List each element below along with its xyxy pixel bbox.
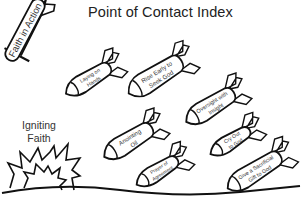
explosion-icon [8, 144, 80, 190]
diagram-canvas: Faith in Action Laying onHandsRise Early… [0, 0, 302, 200]
bomb-body [61, 59, 115, 102]
bomb-prayer-agreement: Prayer ofAgreement [128, 139, 197, 198]
bomb-rise-early: Rise Early toSeek God [119, 38, 203, 109]
bomb-body [99, 119, 157, 166]
explosion-label: Igniting Faith [16, 119, 62, 145]
bomb-body [181, 84, 239, 131]
illustration: Faith in Action Laying onHandsRise Early… [0, 0, 302, 200]
ground-line [2, 186, 300, 194]
page-title: Point of Contact Index [88, 4, 233, 20]
bomb-body [123, 51, 187, 103]
explosion-label-line1: Igniting [16, 119, 62, 132]
bombs-group: Laying onHandsRise Early toSeek GodOvers… [57, 38, 301, 200]
bomb-body [132, 152, 182, 192]
explosion-label-line2: Faith [16, 132, 62, 145]
plane-wing: Faith in Action [3, 0, 47, 63]
plane-label: Faith in Action [6, 1, 44, 59]
bomb-laying-on-hands: Laying onHands [57, 45, 130, 107]
bomb-body [206, 123, 253, 161]
bomb-body [222, 147, 285, 197]
